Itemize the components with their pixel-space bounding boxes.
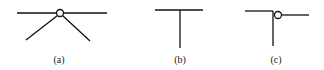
label-c: (c) bbox=[270, 54, 281, 66]
figure-b: (b) bbox=[155, 10, 203, 66]
hinge-circle bbox=[57, 10, 64, 17]
diagram-canvas: (a) (b) (c) bbox=[0, 0, 324, 70]
label-b: (b) bbox=[174, 54, 186, 66]
label-a: (a) bbox=[53, 54, 64, 66]
leg-right bbox=[63, 16, 91, 42]
hinge-circle bbox=[275, 12, 282, 19]
figure-a: (a) bbox=[17, 10, 107, 67]
leg-left bbox=[26, 16, 58, 41]
figure-c: (c) bbox=[245, 11, 309, 66]
